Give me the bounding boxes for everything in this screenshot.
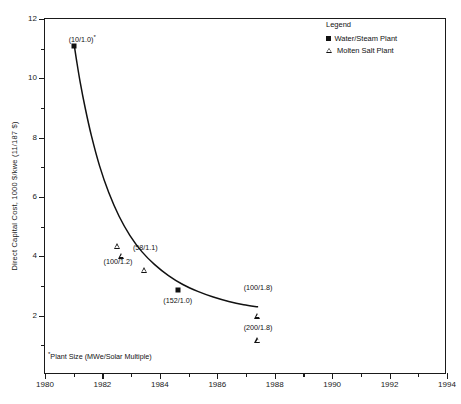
y-tick-label: 4 xyxy=(33,252,37,260)
plot-area: 2468101219801982198419861988199019921994… xyxy=(44,18,446,374)
x-tick-label: 1984 xyxy=(151,381,169,389)
y-tick-major xyxy=(39,78,45,79)
data-point-label: (152/1.0) xyxy=(163,297,192,305)
y-tick-minor xyxy=(41,49,45,50)
x-tick-minor xyxy=(361,373,362,377)
legend: Legend Water/Steam PlantMolten Salt Plan… xyxy=(326,19,397,56)
footnote-text: Plant Size (MWe/Solar Multiple) xyxy=(50,352,151,361)
square-marker-icon xyxy=(326,36,331,41)
triangle-marker-icon xyxy=(326,47,333,54)
legend-item-water-steam[interactable]: Water/Steam Plant xyxy=(326,33,397,44)
x-tick-minor xyxy=(74,373,75,377)
x-tick-major xyxy=(45,373,46,379)
legend-item-label: Molten Salt Plant xyxy=(337,45,394,56)
x-tick-minor xyxy=(189,373,190,377)
chart-figure: Direct Capital Cost, 1000 $/kwe (11/187 … xyxy=(0,0,461,404)
data-point-water-steam xyxy=(175,288,180,293)
x-tick-major xyxy=(102,373,103,379)
y-tick-label: 6 xyxy=(33,193,37,201)
x-tick-label: 1992 xyxy=(381,381,399,389)
y-tick-minor xyxy=(41,286,45,287)
data-point-molten-salt xyxy=(255,337,261,343)
y-tick-major xyxy=(39,316,45,317)
x-tick-label: 1982 xyxy=(94,381,112,389)
data-point-label: (58/1.1) xyxy=(133,244,158,252)
x-tick-major xyxy=(447,373,448,379)
legend-item-molten-salt[interactable]: Molten Salt Plant xyxy=(326,45,397,56)
x-tick-label: 1988 xyxy=(266,381,284,389)
data-point-label: (100/1.2) xyxy=(104,258,133,266)
cost-trend-curve xyxy=(45,19,447,375)
x-tick-major xyxy=(160,373,161,379)
x-tick-major xyxy=(275,373,276,379)
x-tick-minor xyxy=(131,373,132,377)
legend-title: Legend xyxy=(326,19,397,30)
x-tick-minor xyxy=(246,373,247,377)
y-tick-minor xyxy=(41,345,45,346)
y-tick-major xyxy=(39,19,45,20)
x-tick-major xyxy=(332,373,333,379)
data-point-label: (10/1.0)* xyxy=(69,33,96,44)
x-tick-minor xyxy=(303,373,304,377)
x-tick-major xyxy=(217,373,218,379)
data-point-footnote-marker: * xyxy=(94,34,96,40)
x-tick-major xyxy=(390,373,391,379)
y-tick-minor xyxy=(41,227,45,228)
data-point-label: (100/1.8) xyxy=(244,284,273,292)
footnote: *Plant Size (MWe/Solar Multiple) xyxy=(48,351,152,361)
y-tick-minor xyxy=(41,108,45,109)
data-point-molten-salt xyxy=(255,313,261,319)
data-point-molten-salt xyxy=(114,243,120,249)
y-tick-label: 8 xyxy=(33,134,37,142)
y-tick-major xyxy=(39,197,45,198)
y-tick-minor xyxy=(41,167,45,168)
y-tick-major xyxy=(39,138,45,139)
x-tick-label: 1980 xyxy=(36,381,54,389)
x-tick-label: 1994 xyxy=(438,381,456,389)
y-axis-title: Direct Capital Cost, 1000 $/kwe (11/187 … xyxy=(10,121,19,270)
data-point-molten-salt xyxy=(141,267,147,273)
legend-item-label: Water/Steam Plant xyxy=(335,33,398,44)
x-tick-minor xyxy=(418,373,419,377)
y-tick-label: 2 xyxy=(33,312,37,320)
data-point-label: (200/1.8) xyxy=(244,324,273,332)
y-tick-label: 10 xyxy=(28,74,37,82)
x-tick-label: 1986 xyxy=(208,381,226,389)
y-tick-major xyxy=(39,256,45,257)
x-tick-label: 1990 xyxy=(323,381,341,389)
y-tick-label: 12 xyxy=(28,15,37,23)
